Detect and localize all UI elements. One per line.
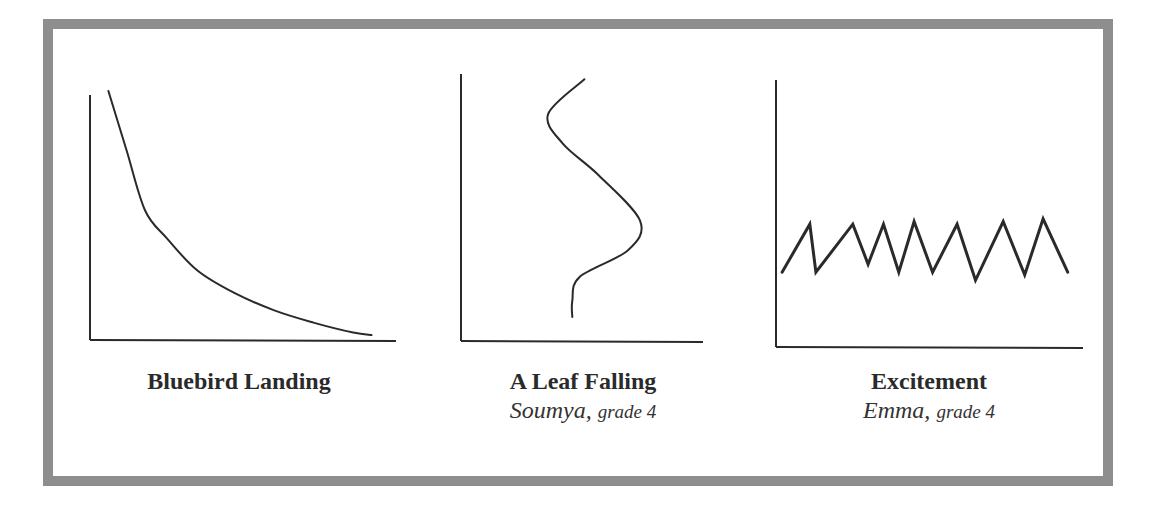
series-line-curve bbox=[547, 79, 641, 317]
caption-excitement: Excitement Emma, grade 4 bbox=[769, 367, 1089, 427]
author-name: Emma, bbox=[863, 397, 930, 423]
author-grade: grade 4 bbox=[936, 401, 995, 422]
author-line: Soumya, grade 4 bbox=[423, 395, 743, 427]
graph-bluebird-landing bbox=[90, 91, 396, 341]
caption-bluebird-landing: Bluebird Landing bbox=[79, 367, 399, 395]
graph-excitement bbox=[776, 80, 1083, 348]
x-axis bbox=[461, 341, 703, 342]
graph-title: Bluebird Landing bbox=[79, 367, 399, 395]
author-name: Soumya, bbox=[510, 397, 592, 423]
series-line-zigzag bbox=[782, 219, 1068, 280]
author-grade: grade 4 bbox=[598, 401, 657, 422]
graphs-canvas bbox=[0, 0, 1171, 510]
series-line-curve bbox=[108, 91, 371, 335]
graph-a-leaf-falling bbox=[461, 74, 703, 342]
author-line: Emma, grade 4 bbox=[769, 395, 1089, 427]
caption-a-leaf-falling: A Leaf Falling Soumya, grade 4 bbox=[423, 367, 743, 427]
graph-title: Excitement bbox=[769, 367, 1089, 395]
x-axis bbox=[776, 347, 1083, 348]
graph-title: A Leaf Falling bbox=[423, 367, 743, 395]
x-axis bbox=[90, 340, 396, 341]
